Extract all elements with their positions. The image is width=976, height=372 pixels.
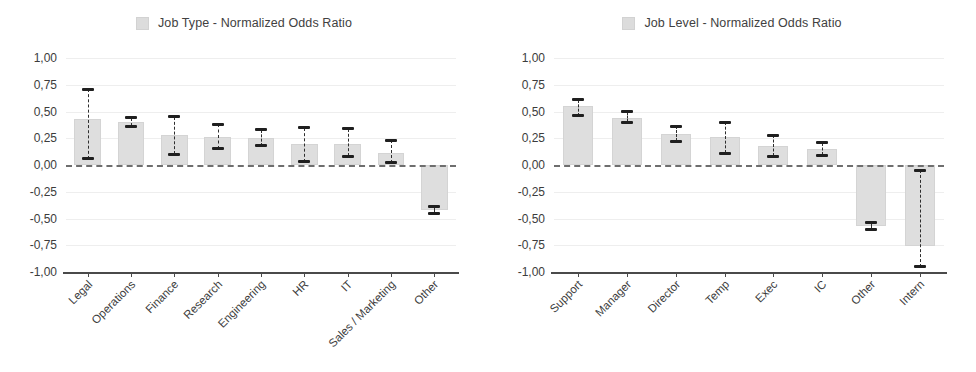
x-axis-tick: [304, 272, 305, 277]
y-axis-tick-label: -0,75: [518, 238, 545, 252]
chart-legend: Job Type - Normalized Odds Ratio: [0, 16, 488, 30]
y-axis-tick-label: -0,75: [30, 238, 57, 252]
gridline: [66, 85, 456, 86]
y-axis-tick-label: -0,25: [30, 185, 57, 199]
error-bar: [920, 170, 921, 266]
y-axis-tick-label: 0,25: [34, 131, 57, 145]
x-axis-tick-label-text: Director: [645, 278, 682, 315]
error-bar-cap-upper: [428, 205, 440, 208]
bar: [856, 165, 886, 226]
y-axis-tick-label: 1,00: [522, 51, 545, 65]
legend-label: Job Level - Normalized Odds Ratio: [644, 16, 841, 30]
error-bar-cap-upper: [82, 88, 94, 91]
x-axis-tick-label: Intern: [897, 278, 926, 307]
error-bar-cap-lower: [428, 212, 440, 215]
x-axis-tick-label: Legal: [66, 278, 94, 306]
x-axis-tick-label: Other: [412, 278, 441, 307]
y-axis-tick-label: 0,00: [34, 158, 57, 172]
error-bar-cap-upper: [914, 169, 926, 172]
error-bar-cap-upper: [719, 121, 731, 124]
error-bar-cap-lower: [865, 228, 877, 231]
bar: [118, 122, 145, 165]
error-bar-cap-lower: [255, 144, 267, 147]
y-axis-tick-label: 0,75: [34, 78, 57, 92]
error-bar: [88, 89, 89, 159]
x-axis-tick-label: Temp: [703, 278, 731, 306]
x-axis-tick-label-text: Temp: [703, 278, 731, 306]
x-axis-tick-label-text: Legal: [66, 278, 94, 306]
x-axis-tick: [627, 272, 628, 277]
error-bar-cap-upper: [212, 123, 224, 126]
y-axis-tick-label: 1,00: [34, 51, 57, 65]
x-axis-tick-label: Research: [181, 278, 224, 321]
x-axis-tick: [822, 272, 823, 277]
error-bar-cap-lower: [621, 121, 633, 124]
error-bar-cap-lower: [298, 160, 310, 163]
error-bar-cap-lower: [168, 153, 180, 156]
chart-legend: Job Level - Normalized Odds Ratio: [488, 16, 976, 30]
gridline: [66, 219, 456, 220]
x-axis-tick: [261, 272, 262, 277]
y-axis-tick-label: 0,00: [522, 158, 545, 172]
legend-swatch-icon: [136, 17, 149, 30]
x-axis-tick: [434, 272, 435, 277]
error-bar: [391, 140, 392, 162]
error-bar-cap-upper: [255, 128, 267, 131]
chart-panel-job-type: Job Type - Normalized Odds Ratio 1,000,7…: [0, 0, 488, 372]
x-axis-tick-label: Operations: [89, 278, 137, 326]
x-axis-tick-label-text: Other: [412, 278, 441, 307]
x-axis-tick: [174, 272, 175, 277]
error-bar-cap-lower: [719, 152, 731, 155]
legend-swatch-icon: [622, 17, 635, 30]
x-axis-tick-label: Director: [645, 278, 682, 315]
gridline: [66, 192, 456, 193]
error-bar-cap-lower: [816, 154, 828, 157]
error-bar-cap-upper: [816, 141, 828, 144]
x-axis-tick: [773, 272, 774, 277]
gridline: [554, 58, 944, 59]
x-axis-tick: [131, 272, 132, 277]
x-axis-tick-label-text: Exec: [753, 278, 780, 305]
y-axis-tick-label: 0,25: [522, 131, 545, 145]
x-axis-tick-label-text: IC: [812, 278, 829, 295]
x-axis-tick-label: Other: [849, 278, 878, 307]
x-axis-tick-label: Exec: [753, 278, 780, 305]
error-bar-cap-upper: [767, 134, 779, 137]
error-bar-cap-upper: [298, 126, 310, 129]
x-axis-tick: [88, 272, 89, 277]
legend-label: Job Type - Normalized Odds Ratio: [158, 16, 352, 30]
error-bar-cap-upper: [385, 139, 397, 142]
zero-reference-line: [554, 165, 944, 167]
gridline: [66, 58, 456, 59]
y-axis-tick-label: -1,00: [30, 265, 57, 279]
error-bar-cap-upper: [572, 98, 584, 101]
x-axis-tick-label: Finance: [143, 278, 180, 315]
x-axis-tick-label-text: Operations: [89, 278, 137, 326]
error-bar: [218, 124, 219, 149]
x-axis-tick-label: Sales / Marketing: [326, 278, 397, 349]
y-axis-tick-label: 0,50: [522, 105, 545, 119]
x-axis-tick: [871, 272, 872, 277]
error-bar-cap-lower: [212, 147, 224, 150]
x-axis-tick-label-text: Sales / Marketing: [326, 278, 397, 349]
x-axis-tick-label: HR: [291, 278, 311, 298]
error-bar: [348, 129, 349, 157]
error-bar-cap-lower: [125, 125, 137, 128]
y-axis-tick-label: -0,25: [518, 185, 545, 199]
chart-panel-job-level: Job Level - Normalized Odds Ratio 1,000,…: [488, 0, 976, 372]
x-axis-tick-label: IT: [338, 278, 354, 294]
error-bar-cap-upper: [125, 116, 137, 119]
x-axis-tick-label: IC: [812, 278, 829, 295]
bar: [612, 118, 642, 165]
error-bar-cap-upper: [621, 110, 633, 113]
x-axis-tick: [391, 272, 392, 277]
x-axis-tick-label-text: HR: [291, 278, 311, 298]
zero-reference-line: [66, 165, 456, 167]
x-axis-tick-label-text: Research: [181, 278, 224, 321]
gridline: [554, 112, 944, 113]
error-bar-cap-lower: [767, 155, 779, 158]
gridline: [554, 85, 944, 86]
y-axis-tick-label: -0,50: [30, 212, 57, 226]
gridline: [66, 245, 456, 246]
error-bar-cap-lower: [385, 161, 397, 164]
